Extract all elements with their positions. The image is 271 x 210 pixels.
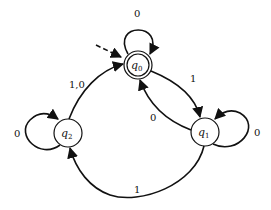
edge-label-q2-q2: 0 bbox=[14, 128, 20, 139]
state-q0: q0 bbox=[124, 51, 152, 79]
state-q2-subscript: 2 bbox=[68, 133, 72, 141]
edge-q0-q0 bbox=[124, 30, 153, 54]
edge-label-q0-q1: 1 bbox=[190, 73, 196, 84]
state-q0-name: q bbox=[131, 59, 138, 72]
state-q2: q2 bbox=[54, 119, 82, 147]
edge-label-q1-q1: 0 bbox=[254, 127, 260, 138]
state-q2-name: q bbox=[61, 127, 68, 140]
state-q1: q1 bbox=[191, 118, 219, 146]
edge-label-q0-q0: 0 bbox=[134, 8, 140, 19]
edge-label-q1-q2: 1 bbox=[134, 184, 140, 195]
state-q1-subscript: 1 bbox=[205, 132, 209, 140]
state-q1-name: q bbox=[198, 126, 205, 139]
edge-label-q2-q0: 1,0 bbox=[69, 79, 85, 90]
edge-q2-q0 bbox=[69, 64, 123, 119]
edge-label-q1-q0: 0 bbox=[150, 112, 156, 123]
automaton-diagram: 0 1 0 0 1 0 1,0 q0 q1 q2 bbox=[0, 0, 271, 210]
edge-q1-q0 bbox=[140, 80, 191, 130]
start-arrow bbox=[96, 45, 121, 57]
state-q0-subscript: 0 bbox=[138, 65, 142, 73]
